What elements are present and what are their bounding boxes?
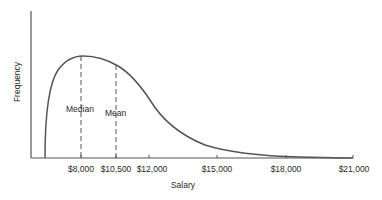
x-tick-label: $21,000 <box>339 164 370 174</box>
x-tick-label: $8,000 <box>68 164 94 174</box>
x-tick-label: $12,000 <box>137 164 168 174</box>
x-tick-label: $18,000 <box>271 164 302 174</box>
mean-label: Mean <box>105 108 127 118</box>
salary-distribution-chart: Median Mean $8,000 $10,500 $12,000 $15,0… <box>0 0 382 200</box>
median-label: Median <box>66 104 94 114</box>
x-tick-label: $15,000 <box>202 164 233 174</box>
y-axis-title: Frequency <box>12 61 22 102</box>
x-tick-label: $10,500 <box>101 164 132 174</box>
x-axis-title: Salary <box>171 180 196 190</box>
